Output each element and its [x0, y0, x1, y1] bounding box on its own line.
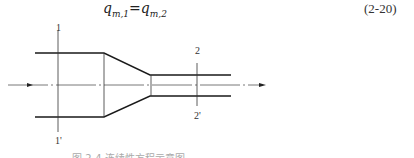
flow-arrow-left-icon	[27, 83, 33, 87]
pipe-diagram	[0, 0, 414, 158]
section-2-label: 2	[195, 45, 200, 56]
figure-caption: 图 2-4 连续性方程示意图	[72, 150, 185, 158]
section-1-prime-label: 1'	[55, 135, 62, 146]
section-2-prime-label: 2'	[194, 110, 201, 121]
flow-arrow-right-icon	[259, 83, 266, 87]
section-1-label: 1	[56, 22, 61, 33]
pipe-lower-wall	[35, 96, 231, 117]
pipe-upper-wall	[35, 53, 231, 75]
